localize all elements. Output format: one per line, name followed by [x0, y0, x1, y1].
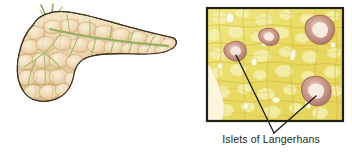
islet-lower-right — [301, 76, 331, 105]
pancreas-illustration-panel — [0, 0, 190, 152]
pancreas-figure: Islets of Langerhans — [0, 0, 352, 152]
islets-of-langerhans-label: Islets of Langerhans — [190, 133, 352, 146]
tissue-field — [207, 8, 343, 121]
pancreas-illustration-svg — [0, 0, 190, 152]
histology-micrograph-svg — [190, 0, 352, 152]
islet-upper-right — [305, 15, 334, 44]
histology-micrograph-panel: Islets of Langerhans — [190, 0, 352, 152]
